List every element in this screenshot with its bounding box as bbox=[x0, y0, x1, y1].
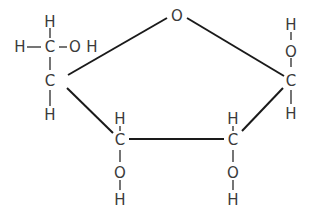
bond-c4-c3 bbox=[67, 88, 113, 133]
c2-carbon: C bbox=[228, 131, 238, 149]
ch2-h-right: H bbox=[86, 38, 97, 56]
c2-oh-h: H bbox=[227, 191, 238, 209]
substituent-bonds bbox=[27, 28, 291, 190]
c3-h: H bbox=[114, 110, 125, 128]
ch2-h-left: H bbox=[14, 38, 25, 56]
bond-c1-c2 bbox=[242, 88, 283, 131]
c3-carbon: C bbox=[115, 131, 125, 149]
c4-carbon: C bbox=[45, 72, 55, 90]
c2-oxygen: O bbox=[227, 164, 239, 182]
c1-carbon: C bbox=[286, 72, 296, 90]
structure-svg: O H H C O H C H H O C H H C O H H C O H bbox=[0, 0, 313, 220]
c1-oxygen: O bbox=[285, 43, 297, 61]
ring-oxygen: O bbox=[171, 7, 183, 25]
bond-c4-ring-o bbox=[68, 18, 167, 75]
ch2-h-top: H bbox=[44, 13, 55, 31]
ring-bonds bbox=[67, 18, 284, 139]
atom-labels: O H H C O H C H H O C H H C O H H C O H bbox=[14, 7, 297, 209]
c3-oh-h: H bbox=[114, 191, 125, 209]
ch2-carbon: C bbox=[45, 38, 55, 56]
c2-h: H bbox=[227, 110, 238, 128]
c3-oxygen: O bbox=[114, 164, 126, 182]
c4-h-bottom: H bbox=[44, 106, 55, 124]
c1-h-bottom: H bbox=[285, 105, 296, 123]
furanose-structure-diagram: O H H C O H C H H O C H H C O H H C O H bbox=[0, 0, 313, 220]
c1-h-top: H bbox=[285, 16, 296, 34]
bond-ring-o-c1 bbox=[187, 18, 284, 76]
ch2-oxygen: O bbox=[69, 38, 81, 56]
